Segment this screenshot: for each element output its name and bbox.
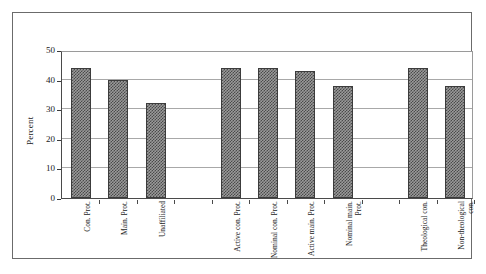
bar[interactable] [408, 68, 428, 198]
bar-slot [137, 52, 174, 198]
x-axis-label: Nominal con. Prot. [271, 201, 280, 259]
bar[interactable] [445, 86, 465, 198]
y-tick-label: 50 [33, 46, 55, 55]
bar-slot [99, 52, 136, 198]
bar[interactable] [295, 71, 315, 198]
bar-slot [249, 52, 286, 198]
y-tick-label: 30 [33, 105, 55, 114]
bar-slot-empty [362, 52, 399, 198]
figure-frame: Percent 01020304050 Con. Prot.Main. Prot… [12, 12, 472, 259]
bar[interactable] [146, 103, 166, 198]
bar-slot [324, 52, 361, 198]
x-axis-label: Con. Prot. [84, 201, 93, 259]
y-tick-label: 10 [33, 164, 55, 173]
bar[interactable] [71, 68, 91, 198]
bar[interactable] [333, 86, 353, 198]
x-axis-label: Active main. Prot. [308, 201, 317, 259]
bar-slot [212, 52, 249, 198]
bar[interactable] [108, 80, 128, 198]
bar-slot [437, 52, 474, 198]
bar-slot [287, 52, 324, 198]
bars-layer [62, 52, 472, 198]
bar-slot-empty [174, 52, 211, 198]
y-tick-mark [57, 199, 61, 200]
bar-slot [62, 52, 99, 198]
x-axis-label: Non-theological con. [458, 201, 475, 259]
y-tick-label: 20 [33, 135, 55, 144]
plot-area [61, 51, 473, 199]
x-axis-label: Main. Prot. [121, 201, 130, 259]
y-tick-label: 40 [33, 76, 55, 85]
bar[interactable] [221, 68, 241, 198]
y-tick-label: 0 [33, 194, 55, 203]
x-axis-label: Nominal main. Prot. [346, 201, 363, 259]
bar-slot [399, 52, 436, 198]
x-axis-label: Unaffiliated [159, 201, 168, 259]
x-axis-labels: Con. Prot.Main. Prot.UnaffiliatedActive … [61, 201, 473, 263]
bar[interactable] [258, 68, 278, 198]
y-axis-title: Percent [23, 91, 37, 171]
x-axis-label: Theological con. [421, 201, 430, 259]
x-axis-label: Active con. Prot. [234, 201, 243, 259]
